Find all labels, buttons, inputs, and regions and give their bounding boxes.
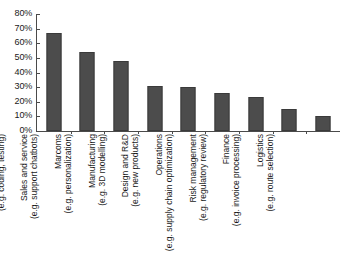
category-example: (e.g. supply chain optimization)	[164, 134, 174, 251]
category-example: (e.g. invoice processing)	[231, 134, 241, 226]
x-axis-tick-mark	[71, 131, 72, 134]
category-name: Logistics	[255, 134, 265, 167]
category-name: Risk management	[187, 134, 197, 203]
x-axis-category-rotated: Finance(e.g. invoice processing)	[221, 134, 243, 271]
y-axis-tick-mark	[36, 131, 40, 132]
x-axis-tick-mark	[172, 131, 173, 134]
category-example: (e.g. new products)	[130, 134, 140, 207]
x-axis-tick-mark	[104, 131, 105, 134]
bar-slot	[71, 14, 105, 131]
bar[interactable]	[181, 87, 196, 131]
y-axis-tick-label: 70%	[15, 23, 32, 34]
category-name: Operations	[154, 134, 164, 176]
bar[interactable]	[215, 93, 230, 131]
category-name: Marcoms	[53, 134, 63, 169]
x-axis-tick-mark	[138, 131, 139, 134]
category-name: Manufacturing	[86, 134, 96, 188]
category-example: (e.g. support chatbots)	[29, 134, 39, 219]
x-axis-category-rotated: Operations(e.g. supply chain optimizatio…	[154, 134, 176, 271]
x-axis-tick-mark	[205, 131, 206, 134]
y-axis-tick-label: 50%	[15, 52, 32, 63]
bar-slot	[104, 14, 138, 131]
category-example: (e.g. coding, testing)	[0, 134, 5, 211]
bar[interactable]	[316, 116, 331, 131]
bar[interactable]	[248, 97, 263, 131]
bar[interactable]	[46, 33, 61, 131]
y-axis-ticks: 80%70%60%50%40%30%20%10%0%	[0, 14, 40, 132]
category-example: (e.g. personalization)	[63, 134, 73, 213]
x-axis-category-rotated: Risk management(e.g. regulatory review)	[187, 134, 209, 271]
y-axis-tick-label: 10%	[15, 110, 32, 121]
x-axis-category-rotated: Marcoms(e.g. personalization)	[53, 134, 75, 271]
x-axis-tick-mark	[239, 131, 240, 134]
bar-slot	[239, 14, 273, 131]
category-name: Finance	[221, 134, 231, 164]
category-name: Sales and service	[19, 134, 29, 201]
bar-chart: 80%70%60%50%40%30%20%10%0% IT(e.g. codin…	[0, 0, 349, 271]
bar-slot	[273, 14, 307, 131]
y-axis-tick-label: 20%	[15, 96, 32, 107]
x-axis-category: Logistics(e.g. route selection)	[306, 134, 340, 271]
x-axis-tick-mark	[306, 131, 307, 134]
bar[interactable]	[80, 52, 95, 131]
bar-slot	[172, 14, 206, 131]
category-example: (e.g. route selection)	[265, 134, 275, 211]
x-axis-category-rotated: Logistics(e.g. route selection)	[255, 134, 277, 271]
bar-slot	[205, 14, 239, 131]
bar[interactable]	[282, 109, 297, 131]
x-axis-category: Finance(e.g. invoice processing)	[273, 134, 307, 271]
x-axis-category-rotated: Sales and service(e.g. support chatbots)	[19, 134, 41, 271]
x-axis-line	[36, 131, 340, 132]
x-axis-category-rotated: Manufacturing(e.g. 3D modelling)	[86, 134, 108, 271]
x-axis-category-labels: IT(e.g. coding, testing)Sales and servic…	[37, 134, 340, 271]
category-example: (e.g. 3D modelling)	[96, 134, 106, 206]
bar[interactable]	[147, 86, 162, 131]
bar-slot	[138, 14, 172, 131]
category-example: (e.g. regulatory review)	[197, 134, 207, 221]
x-axis-category-rotated: IT(e.g. coding, testing)	[0, 134, 7, 271]
y-axis-tick-label: 80%	[15, 8, 32, 19]
category-name: Design and R&D	[120, 134, 130, 197]
bar[interactable]	[114, 61, 129, 131]
bar-slot	[37, 14, 71, 131]
x-axis-category-rotated: Design and R&D(e.g. new products)	[120, 134, 142, 271]
y-axis-tick-label: 40%	[15, 67, 32, 78]
y-axis-tick-label: 30%	[15, 81, 32, 92]
x-axis-tick-mark	[273, 131, 274, 134]
bar-series	[37, 14, 340, 131]
y-axis-tick-label: 60%	[15, 37, 32, 48]
bar-slot	[306, 14, 340, 131]
